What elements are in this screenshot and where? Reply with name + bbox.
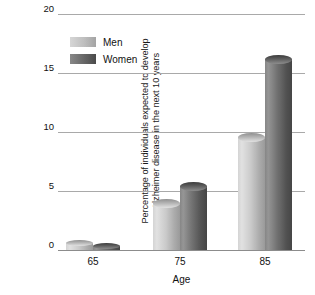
bar-65-women[interactable] xyxy=(93,246,120,250)
bar-85-women[interactable] xyxy=(265,59,292,250)
legend-label-women: Women xyxy=(103,54,137,65)
bar-group-85 xyxy=(238,14,294,250)
y-tick-15: 15 xyxy=(43,62,54,73)
bar-cap xyxy=(66,240,93,246)
x-tick-65: 65 xyxy=(53,256,133,267)
bar-cap xyxy=(153,199,180,208)
y-tick-20: 20 xyxy=(43,3,54,14)
legend-item-women[interactable]: Women xyxy=(70,53,137,65)
y-axis-tick-labels: 20 15 10 5 0 xyxy=(16,14,54,250)
bar-body xyxy=(180,186,207,250)
bar-group-75 xyxy=(153,14,209,250)
legend-label-men: Men xyxy=(103,37,122,48)
bar-chart: Percentage of individuals expected to de… xyxy=(0,0,315,295)
x-axis-line xyxy=(58,250,305,251)
x-tick-75: 75 xyxy=(140,256,220,267)
y-tick-0: 0 xyxy=(49,239,54,250)
y-tick-5: 5 xyxy=(49,180,54,191)
legend-swatch-women xyxy=(70,54,96,64)
legend-swatch-men xyxy=(70,37,96,47)
bar-75-men[interactable] xyxy=(153,203,180,250)
y-tick-10: 10 xyxy=(43,121,54,132)
bar-75-women[interactable] xyxy=(180,186,207,250)
bar-body xyxy=(153,203,180,250)
bar-cap xyxy=(238,133,265,142)
bar-body xyxy=(238,137,265,250)
legend-item-men[interactable]: Men xyxy=(70,36,137,48)
x-axis-title: Age xyxy=(58,274,305,285)
bar-65-men[interactable] xyxy=(66,243,93,250)
legend: Men Women xyxy=(70,36,137,70)
bar-body xyxy=(265,59,292,250)
plot-area: Men Women xyxy=(58,14,305,250)
bar-cap xyxy=(265,55,292,64)
bar-85-men[interactable] xyxy=(238,137,265,250)
x-tick-85: 85 xyxy=(225,256,305,267)
